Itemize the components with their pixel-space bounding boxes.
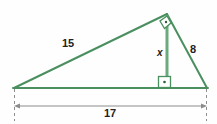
- label-altitude: x: [157, 48, 163, 58]
- right-angle-marker-foot: [159, 77, 171, 88]
- label-hypotenuse: 17: [104, 108, 116, 119]
- geometry-diagram: 15 8 x 17: [0, 0, 217, 124]
- diagram-canvas: [0, 0, 217, 124]
- segment-leg-long: [14, 14, 167, 88]
- label-leg-long: 15: [62, 38, 74, 49]
- label-leg-short: 8: [190, 44, 196, 55]
- segment-leg-short: [167, 14, 207, 88]
